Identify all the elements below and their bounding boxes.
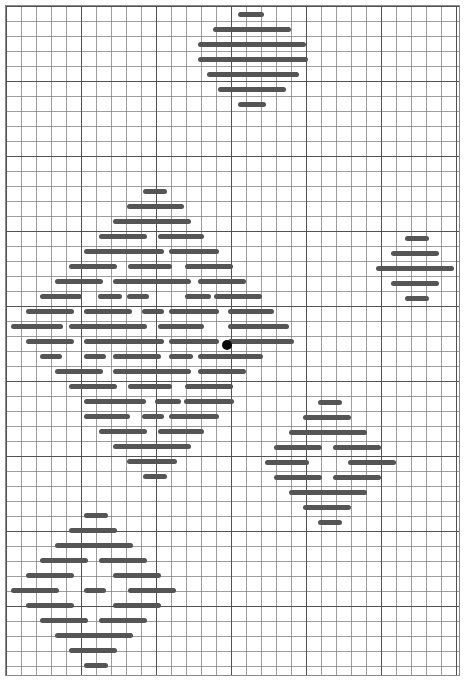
figure-stage: [0, 0, 466, 686]
graph-paper-grid: [5, 5, 460, 676]
